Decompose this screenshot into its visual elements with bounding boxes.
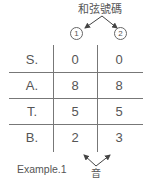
cell-t-2: 5 xyxy=(97,104,141,119)
marker-1-circle: 1 xyxy=(70,27,83,40)
top-arrow-right xyxy=(102,16,117,28)
cell-s-2: 0 xyxy=(97,52,141,67)
row-divider-2 xyxy=(9,98,143,99)
cell-b-1: 2 xyxy=(53,130,97,145)
cell-a-1: 8 xyxy=(53,78,97,93)
row-label-b: B. xyxy=(10,130,54,145)
cell-b-2: 3 xyxy=(97,130,141,145)
cell-a-2: 8 xyxy=(97,78,141,93)
row-label-a: A. xyxy=(10,78,54,93)
row-divider-1 xyxy=(9,72,143,73)
marker-2-circle: 2 xyxy=(114,27,127,40)
cell-t-1: 5 xyxy=(53,104,97,119)
note-label: 音 xyxy=(91,165,101,178)
row-divider-3 xyxy=(9,124,143,125)
row-label-t: T. xyxy=(10,104,54,119)
example-label: Example.1 xyxy=(17,163,67,175)
cell-s-1: 0 xyxy=(53,52,97,67)
top-arrow-left xyxy=(85,16,102,28)
row-label-s: S. xyxy=(10,52,54,67)
